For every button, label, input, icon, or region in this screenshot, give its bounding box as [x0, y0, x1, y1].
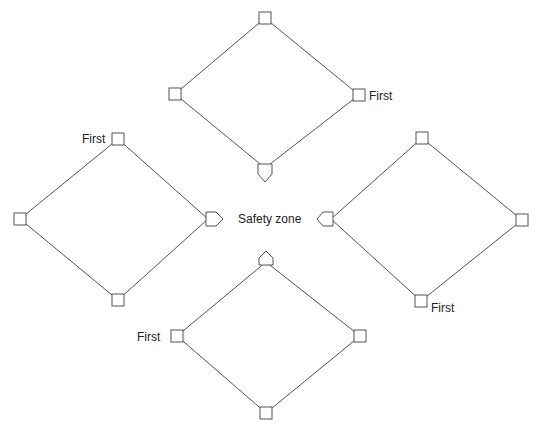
diamond-right-baselines — [331, 138, 522, 301]
home-plate-top — [258, 164, 272, 182]
first-label-bottom: First — [137, 330, 161, 344]
safety-zone-label: Safety zone — [238, 212, 302, 226]
first-label-top: First — [369, 89, 393, 103]
diamond-bottom-baselines — [177, 262, 360, 413]
base-first-bottom — [171, 330, 183, 342]
base-first-top — [353, 89, 365, 101]
diamond-left: First — [14, 132, 223, 306]
base-first-right — [415, 295, 427, 307]
diamond-top: First — [169, 12, 393, 182]
home-plate-left — [206, 212, 223, 226]
diamond-left-baselines — [20, 139, 208, 300]
first-label-left: First — [82, 132, 106, 146]
base-second-left — [14, 213, 26, 225]
home-plate-right — [317, 212, 333, 226]
base-first-left — [112, 133, 124, 145]
first-label-right: First — [431, 301, 455, 315]
base-second-bottom — [260, 407, 272, 419]
base-third-bottom — [354, 330, 366, 342]
base-second-right — [516, 214, 528, 226]
base-second-top — [259, 12, 271, 24]
baseball-diamonds-diagram: First First First First Safety zone — [0, 0, 540, 432]
base-third-left — [112, 294, 124, 306]
diamond-bottom: First — [137, 251, 366, 419]
base-third-right — [416, 132, 428, 144]
base-third-top — [169, 88, 181, 100]
home-plate-bottom — [259, 251, 273, 265]
diamond-top-baselines — [175, 18, 359, 168]
diamond-right: First — [317, 132, 528, 315]
